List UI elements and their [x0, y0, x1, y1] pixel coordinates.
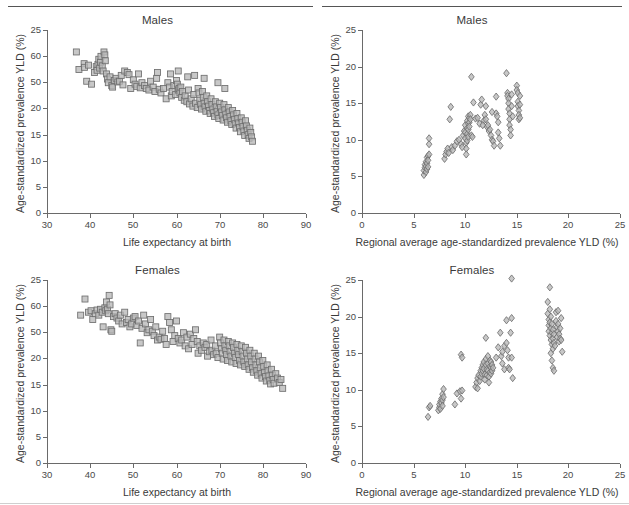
x-axis-tick [620, 214, 621, 218]
scatter-point-diamond [483, 103, 489, 110]
x-axis-tick-label: 20 [554, 470, 582, 480]
scatter-point-square [88, 81, 94, 87]
header-rule-left [8, 6, 313, 7]
y-axis-tick-label: 60 [13, 301, 41, 311]
scatter-point-diamond [547, 284, 553, 291]
x-axis-tick-label: 20 [554, 220, 582, 230]
x-axis-tick [517, 464, 518, 468]
scatter-point-diamond [448, 103, 454, 110]
scatter-point-square [120, 82, 126, 88]
x-axis-tick-label: 25 [606, 220, 629, 230]
x-axis-tick [362, 214, 363, 218]
scatter-point-diamond [545, 298, 551, 305]
x-axis-tick-label: 30 [33, 220, 61, 230]
x-axis-tick-label: 40 [76, 220, 104, 230]
panel-top-right: Males Age-standardized prevalence YLD (%… [315, 8, 629, 253]
y-axis-tick-label: 50 [13, 327, 41, 337]
x-axis-line [362, 213, 620, 214]
y-axis-tick [358, 103, 362, 104]
y-axis-tick [43, 30, 47, 31]
y-axis-tick-label: 15 [328, 348, 356, 358]
scatter-point-diamond [471, 99, 477, 106]
scatter-point-square [109, 328, 115, 334]
y-axis-line [47, 280, 48, 463]
y-axis-tick-label: 15 [13, 380, 41, 390]
scatter-point-diamond [495, 119, 501, 126]
y-axis-line [362, 280, 363, 463]
y-axis-tick [358, 140, 362, 141]
scatter-point-square [175, 68, 181, 74]
y-axis-tick-label: 25 [328, 25, 356, 35]
y-axis-tick [43, 280, 47, 281]
y-axis-tick [43, 306, 47, 307]
y-axis-tick-label: 10 [328, 135, 356, 145]
scatter-point-diamond [493, 354, 499, 361]
scatter-point-square [161, 86, 167, 92]
x-axis-tick [362, 464, 363, 468]
scatter-point-diamond [509, 314, 515, 321]
y-axis-tick [43, 108, 47, 109]
y-axis-tick [358, 67, 362, 68]
x-axis-tick [133, 464, 134, 468]
scatter-point-diamond [497, 142, 503, 149]
scatter-point-square [278, 377, 284, 383]
x-axis-tick-label: 0 [348, 470, 376, 480]
x-axis-tick [177, 214, 178, 218]
y-axis-tick-label: 20 [13, 103, 41, 113]
figure-scatter-panel-grid: Males Age-standardized prevalence YLD (%… [0, 0, 629, 505]
panel-top-left: Males Age-standardized prevalence YLD (%… [0, 8, 315, 253]
y-axis-tick [43, 437, 47, 438]
x-axis-tick [414, 214, 415, 218]
y-axis-tick-label: 5 [328, 421, 356, 431]
x-axis-tick-label: 50 [119, 220, 147, 230]
scatter-point-diamond [549, 357, 555, 364]
scatter-point-diamond [558, 314, 564, 321]
scatter-point-square [122, 309, 128, 315]
x-axis-tick [47, 464, 48, 468]
scatter-point-diamond [495, 129, 501, 136]
scatter-point-square [208, 337, 214, 343]
scatter-point-square [106, 292, 112, 298]
scatter-point-square [136, 318, 142, 324]
scatter-point-square [82, 296, 88, 302]
y-axis-line [47, 30, 48, 213]
scatter-point-square [78, 312, 84, 318]
y-axis-tick [43, 411, 47, 412]
y-axis-tick [43, 56, 47, 57]
y-axis-tick-label: 20 [13, 353, 41, 363]
x-axis-tick-label: 40 [76, 470, 104, 480]
scatter-point-square [148, 78, 154, 84]
scatter-point-square [73, 49, 79, 55]
y-axis-tick-label: 5 [13, 182, 41, 192]
y-axis-tick [43, 82, 47, 83]
x-axis-tick-label: 0 [348, 220, 376, 230]
x-axis-tick-label: 70 [206, 220, 234, 230]
x-axis-tick-label: 10 [451, 220, 479, 230]
x-axis-tick-label: 10 [451, 470, 479, 480]
scatter-point-square [160, 328, 166, 334]
x-axis-tick-label: 60 [163, 220, 191, 230]
scatter-point-diamond [496, 135, 502, 142]
y-axis-tick-label: 0 [13, 208, 41, 218]
scatter-point-square [102, 52, 108, 58]
y-axis-tick-label: 0 [328, 208, 356, 218]
scatter-point-square [165, 314, 171, 320]
scatter-point-square [137, 340, 143, 346]
x-axis-tick-label: 25 [606, 470, 629, 480]
scatter-point-diamond [452, 401, 458, 408]
x-axis-tick [220, 464, 221, 468]
y-axis-tick [43, 358, 47, 359]
scatter-point-square [136, 71, 142, 77]
y-axis-tick-label: 15 [13, 130, 41, 140]
scatter-point-square [76, 67, 82, 73]
scatter-point-diamond [493, 93, 499, 100]
x-axis-tick-label: 60 [163, 470, 191, 480]
scatter-point-square [168, 327, 174, 333]
x-axis-tick-label: 50 [119, 470, 147, 480]
y-axis-tick [358, 353, 362, 354]
scatter-point-diamond [483, 334, 489, 341]
x-axis-tick [414, 464, 415, 468]
scatter-point-diamond [508, 132, 514, 139]
header-rule-right [322, 6, 622, 7]
scatter-point-diamond [425, 413, 431, 420]
